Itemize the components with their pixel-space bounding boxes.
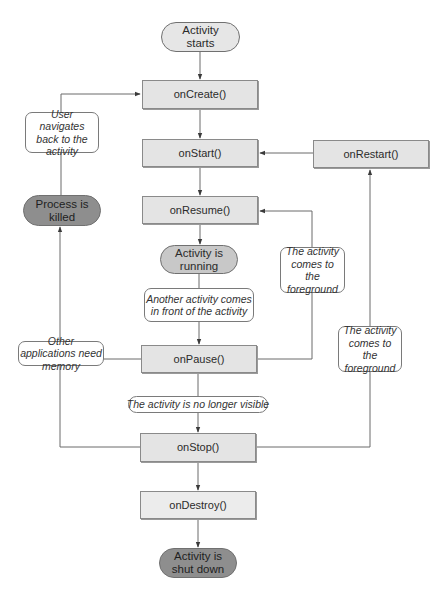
process-killed-label: Process is killed (32, 198, 92, 224)
user-navigates-back-note: User navigates back to the activity (25, 112, 99, 153)
on-pause-label: onPause() (174, 353, 225, 366)
on-start-label: onStart() (179, 147, 222, 160)
foreground-to-restart-text: The activity comes to the foreground (340, 324, 400, 374)
user-navigates-back-text: User navigates back to the activity (29, 108, 95, 158)
foreground-to-restart-note: The activity comes to the foreground (338, 326, 402, 372)
activity-starts-label: Activity starts (171, 24, 231, 50)
on-create-node: onCreate() (142, 80, 258, 109)
on-create-label: onCreate() (174, 88, 227, 101)
on-resume-label: onResume() (170, 204, 231, 217)
other-apps-need-memory-text: Other applications need memory (19, 335, 103, 373)
activity-shut-down-label: Activity is shut down (168, 550, 228, 576)
activity-running-label: Activity is running (169, 247, 229, 273)
foreground-to-resume-note: The activity comes to the foreground (280, 247, 345, 293)
on-stop-label: onStop() (177, 441, 219, 454)
foreground-to-resume-text: The activity comes to the foreground (283, 245, 343, 295)
on-resume-node: onResume() (142, 196, 258, 224)
on-restart-node: onRestart() (313, 140, 429, 168)
on-destroy-node: onDestroy() (140, 491, 256, 519)
activity-lifecycle-diagram: Activity starts Process is killed Activi… (0, 0, 442, 593)
on-stop-node: onStop() (140, 433, 256, 462)
activity-starts-node: Activity starts (161, 22, 240, 52)
process-killed-node: Process is killed (23, 195, 101, 226)
on-pause-node: onPause() (141, 345, 257, 373)
no-longer-visible-text: The activity is no longer visible (127, 398, 269, 411)
another-activity-front-note: Another activity comes in front of the a… (144, 288, 254, 322)
on-destroy-label: onDestroy() (169, 499, 226, 512)
activity-shut-down-node: Activity is shut down (159, 548, 237, 578)
no-longer-visible-note: The activity is no longer visible (128, 396, 268, 413)
on-start-node: onStart() (142, 139, 258, 167)
activity-running-node: Activity is running (160, 245, 238, 274)
another-activity-front-text: Another activity comes in front of the a… (146, 293, 252, 318)
other-apps-need-memory-note: Other applications need memory (18, 341, 104, 366)
on-restart-label: onRestart() (343, 148, 398, 161)
